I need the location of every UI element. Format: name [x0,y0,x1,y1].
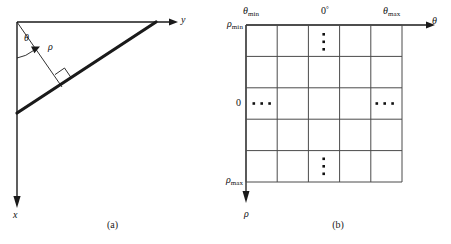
rho-axis-arrowhead [243,191,250,203]
y-axis-arrowhead [169,18,178,25]
figure-root: θ ρ y x (a) [0,0,451,244]
rho-axis-label: ρ [244,209,249,219]
theta-arc-arrowhead [31,46,40,53]
panel-b-caption: (b) [225,219,451,230]
rho-max-label: ρmax [226,175,243,187]
theta-max-subscript: max [388,10,400,18]
theta-max-label: θmax [383,6,400,18]
top-vertical-ellipsis [322,33,325,51]
rho-label: ρ [48,42,53,52]
panel-b-drawing [225,0,451,244]
theta-axis-label: θ [432,16,437,26]
y-axis-label: y [181,15,185,25]
bottom-vertical-ellipsis [322,158,325,176]
panel-a-line-normal-representation: θ ρ y x (a) [0,0,225,244]
theta-min-label: θmin [243,6,259,18]
right-horizontal-ellipsis [376,102,394,105]
rho-max-subscript: max [231,179,243,187]
theta-angle-arc [17,46,40,58]
left-horizontal-ellipsis [253,102,271,105]
panel-b-accumulator-cells: θmin 0° θmax θ ρmin 0 ρmax ρ (b) [225,0,451,244]
target-line [17,22,156,113]
rho-min-label: ρmin [227,19,243,31]
theta-min-subscript: min [248,10,259,18]
panel-a-caption: (a) [0,219,225,230]
panel-a-drawing [0,0,225,244]
zero-degrees-label: 0° [321,6,329,16]
x-axis-arrowhead [13,196,20,208]
x-axis [13,22,20,208]
degree-sign: ° [326,5,329,13]
right-angle-marker [55,68,71,78]
theta-label: θ [24,33,29,43]
ellipsis-dots [253,33,394,175]
rho-min-subscript: min [232,23,243,31]
rho-zero-label: 0 [236,98,241,108]
